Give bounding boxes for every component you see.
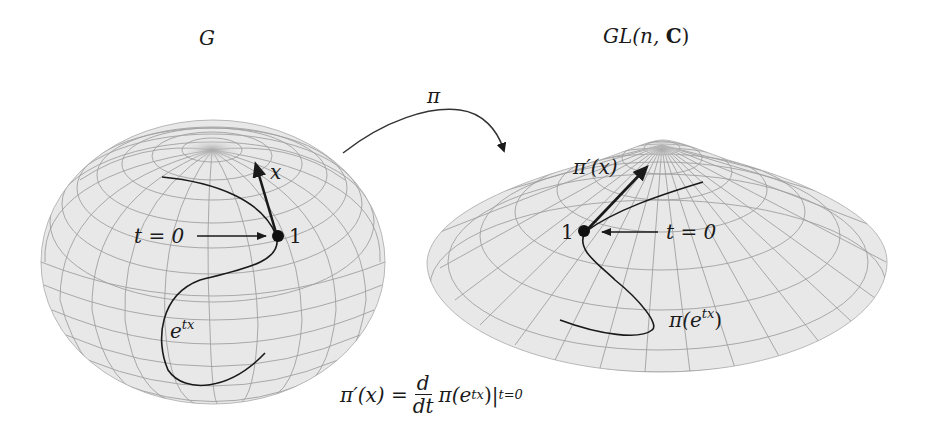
one-text-right: 1 (561, 220, 574, 244)
right-curve-label-pi-etx: π(etx) (669, 307, 722, 330)
close-paren-text: ) (714, 308, 722, 332)
title-g-text: G (199, 26, 215, 50)
one-text: 1 (289, 224, 302, 248)
right-peak-shade (640, 141, 684, 159)
left-point-label-1: 1 (289, 226, 302, 246)
formula-rhs-prefix: π(e (439, 383, 472, 407)
formula-fraction: d dt (411, 372, 436, 417)
formula-frac-num: d (415, 372, 432, 395)
right-identity-point (578, 225, 590, 237)
pi-text: π (427, 84, 440, 108)
formula-rhs-exp: tx (471, 387, 484, 402)
title-group-g: G (199, 28, 215, 48)
right-t0-label: t = 0 (666, 222, 716, 242)
tx-exp-text: tx (182, 317, 195, 332)
title-gl-bold-c: C (666, 24, 682, 48)
right-point-label-1: 1 (561, 222, 574, 242)
formula-lhs: π′(x) = (340, 383, 408, 407)
title-gl-n-c: GL(n, C) (603, 26, 689, 46)
left-curve-label-etx: etx (170, 318, 194, 341)
pi-e-text: π(e (669, 308, 702, 332)
x-text: x (270, 160, 281, 184)
left-identity-point (272, 230, 284, 242)
right-vector-label-pi-prime-x: π′(x) (573, 157, 618, 177)
left-pole-shade (182, 138, 242, 162)
t0-text: t = 0 (134, 224, 184, 248)
formula-rhs-suffix: )| (484, 383, 499, 407)
derivative-formula: π′(x) = d dt π(etx)|t=0 (340, 372, 523, 417)
left-t0-label: t = 0 (134, 226, 184, 246)
e-text: e (170, 319, 182, 343)
t0-text-right: t = 0 (666, 220, 716, 244)
tx-exp-text-right: tx (702, 306, 715, 321)
left-vector-label-x: x (270, 162, 281, 182)
title-gl-prefix: GL(n, (603, 24, 666, 48)
pi-map-arrow (343, 109, 503, 153)
pi-prime-x-text: π′(x) (573, 155, 618, 179)
formula-frac-den: dt (411, 395, 436, 417)
formula-subscript: t=0 (498, 387, 522, 402)
title-gl-suffix: ) (682, 24, 690, 48)
right-cone-surface (427, 140, 887, 372)
left-sphere-surface (41, 120, 385, 405)
pi-map-label: π (427, 86, 440, 106)
